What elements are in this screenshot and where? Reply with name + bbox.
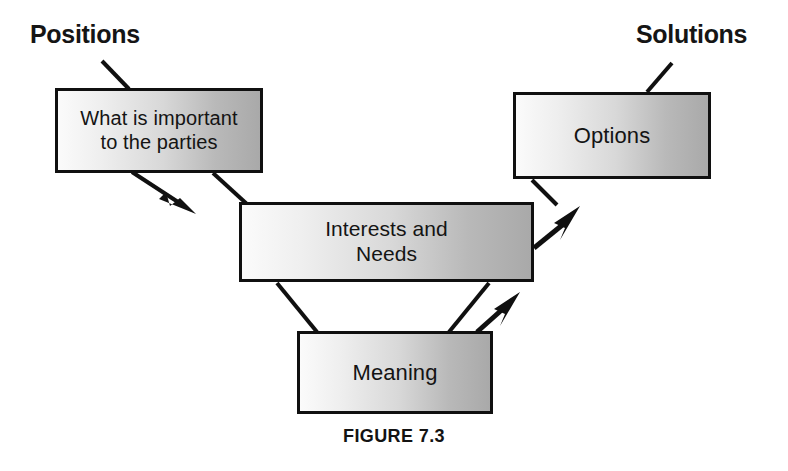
heading-positions: Positions	[30, 22, 140, 47]
figure-7-3: Positions Solutions	[0, 0, 788, 471]
positions-to-interests-arrow	[132, 172, 196, 214]
box-positions-label: What is importantto the parties	[74, 107, 243, 154]
box-meaning-label: Meaning	[346, 360, 443, 386]
figure-caption: FIGURE 7.3	[0, 426, 788, 447]
positions-to-interests-line	[213, 173, 248, 205]
box-options[interactable]: Options	[513, 92, 711, 179]
meaning-to-interests-line	[449, 283, 489, 332]
box-options-label: Options	[568, 123, 657, 149]
box-interests[interactable]: Interests andNeeds	[239, 202, 534, 282]
heading-solutions: Solutions	[636, 22, 747, 47]
meaning-to-interests-arrow	[477, 292, 520, 332]
box-meaning[interactable]: Meaning	[297, 331, 493, 414]
interests-to-options-arrow	[534, 206, 580, 248]
box-positions[interactable]: What is importantto the parties	[55, 88, 263, 173]
interests-to-options-line	[532, 180, 557, 205]
box-interests-label: Interests andNeeds	[319, 217, 454, 267]
interests-to-meaning-line	[277, 283, 317, 332]
solutions-leader-line	[647, 63, 672, 92]
positions-leader-line	[102, 61, 129, 89]
